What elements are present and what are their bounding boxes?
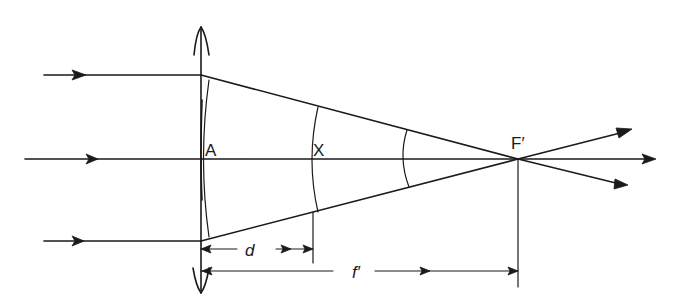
label-a: A xyxy=(205,141,217,160)
lower-diverging-ray xyxy=(518,159,624,185)
bottom-converging-ray xyxy=(201,159,518,241)
upper-diverging-ray xyxy=(518,131,628,159)
dimension-d: d xyxy=(201,241,313,260)
incoming-rays xyxy=(44,70,201,246)
extension-lines xyxy=(313,159,518,287)
upper-diverging-arrowhead-icon xyxy=(616,128,632,138)
top-converging-ray xyxy=(201,75,518,159)
label-x: X xyxy=(313,141,324,160)
wavefront-at-lens-dark xyxy=(201,100,202,200)
lens-ray-diagram: d f′ A X F′ xyxy=(0,0,681,306)
converging-rays xyxy=(201,75,518,241)
label-d: d xyxy=(245,241,255,260)
lower-diverging-arrowhead-icon xyxy=(614,179,628,189)
label-f-prime: f′ xyxy=(352,263,361,282)
dimension-f-prime: f′ xyxy=(201,263,518,282)
optical-axis xyxy=(25,154,656,164)
label-f-prime-point: F′ xyxy=(511,134,525,153)
